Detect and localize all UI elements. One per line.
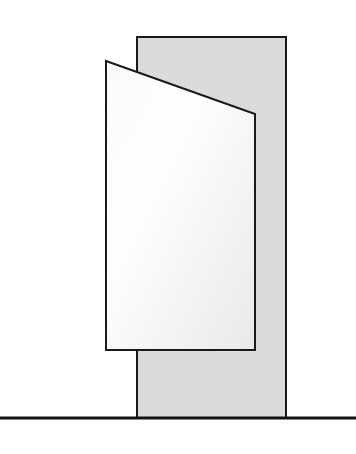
door-diagram <box>0 0 356 454</box>
